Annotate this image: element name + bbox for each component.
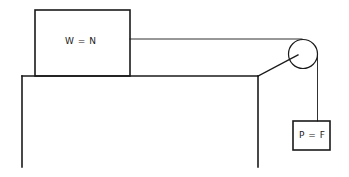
block-p-label: P = F [299, 130, 325, 140]
pulley-support [258, 55, 298, 76]
table [22, 76, 258, 167]
block-w-label: W = N [65, 36, 96, 46]
pulley-wheel [289, 40, 318, 69]
pulley-diagram [0, 0, 349, 177]
